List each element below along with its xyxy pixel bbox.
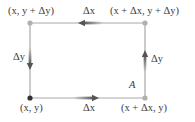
label-top-left-corner: (x, y + Δy) — [8, 5, 54, 16]
label-bottom-right-corner: (x + Δx, y) — [121, 102, 167, 113]
label-top-right-corner: (x + Δx, y + Δy) — [110, 5, 179, 16]
arrow-right-up-icon — [142, 50, 148, 72]
rectangle-edges — [30, 23, 145, 98]
label-edge-bottom: Δx — [83, 102, 95, 113]
label-edge-right: Δy — [151, 53, 163, 64]
arrow-bottom-right-icon — [74, 95, 99, 101]
corner-dot-origin — [27, 95, 32, 100]
corner-dot-top-left — [27, 20, 32, 25]
label-edge-left: Δy — [13, 51, 25, 62]
label-bottom-left-corner: (x, y) — [20, 102, 43, 113]
label-region-a: A — [129, 79, 135, 90]
arrow-left-down-icon — [27, 48, 33, 70]
label-edge-top: Δx — [83, 5, 95, 16]
corner-dot-bottom-right — [142, 95, 147, 100]
corner-dot-top-right — [142, 20, 147, 25]
arrow-top-left-icon — [78, 20, 103, 26]
